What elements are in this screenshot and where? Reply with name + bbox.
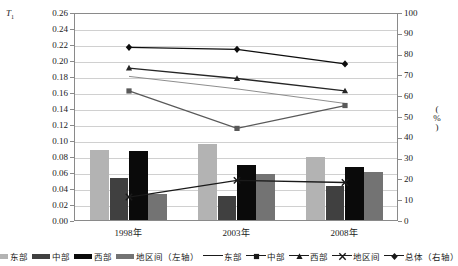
line-marker (342, 103, 347, 108)
chart-legend: 东部中部西部地区间（左轴）东部中部西部地区间总体（右轴） (0, 248, 452, 264)
y-tick-label: 0.08 (52, 153, 68, 162)
legend-item[interactable]: 总体（右轴） (384, 250, 458, 262)
x-axis-label: 2003年 (191, 226, 281, 239)
legend-label: 地区间 (353, 250, 380, 262)
y-tick-label: 0.14 (52, 105, 68, 114)
y-tick-label: 0.10 (52, 137, 68, 146)
legend-marker-diamond (390, 252, 399, 261)
legend-line-sample (203, 252, 223, 260)
legend-swatch (74, 254, 92, 259)
legend-marker-triangle (295, 252, 304, 261)
secondary-y-tick-label: 50 (404, 113, 413, 122)
line-marker (342, 60, 348, 67)
legend-marker-x (338, 252, 347, 261)
legend-marker-square (252, 252, 261, 261)
secondary-y-tick-label: 80 (404, 50, 413, 59)
y-tick-label: 0.06 (52, 169, 68, 178)
legend-label: 总体（右轴） (405, 250, 458, 262)
legend-item[interactable]: 中部 (246, 250, 285, 262)
line-marker (296, 253, 302, 259)
y-tick-label: 0.24 (52, 25, 68, 34)
secondary-y-tick-label: 40 (404, 133, 413, 142)
line-marker (126, 88, 131, 93)
secondary-y-tick-label: 100 (404, 9, 418, 18)
legend-item[interactable]: 西部 (74, 250, 112, 262)
secondary-y-tick-label: 90 (404, 29, 413, 38)
line-marker (339, 253, 345, 259)
legend-line-sample (384, 252, 404, 260)
legend-line-sample (246, 252, 266, 260)
secondary-y-tick-label: 60 (404, 92, 413, 101)
line-series-group (75, 14, 399, 222)
y-tick-mark (70, 221, 74, 222)
x-axis-label: 1998年 (83, 226, 173, 239)
secondary-y-tick-label: 0 (404, 217, 409, 226)
y-axis-tick-labels: 0.000.020.040.060.080.100.120.140.160.18… (0, 0, 68, 266)
legend-label: 东部 (224, 250, 242, 262)
secondary-y-tick-label: 30 (404, 154, 413, 163)
legend-label: 东部 (10, 250, 28, 262)
line-path (129, 180, 345, 197)
legend-label: 中部 (267, 250, 285, 262)
y-tick-label: 0.00 (52, 217, 68, 226)
secondary-y-tick-label: 10 (404, 196, 413, 205)
x-axis-label: 2008年 (299, 226, 389, 239)
y-tick-label: 0.02 (52, 201, 68, 210)
y-tick-label: 0.22 (52, 41, 68, 50)
legend-line-sample (332, 252, 352, 260)
line-marker (391, 252, 397, 259)
y-tick-label: 0.18 (52, 73, 68, 82)
legend-label: 地区间（左轴） (136, 250, 199, 262)
legend-item[interactable]: 东部 (0, 250, 28, 262)
legend-line-sample (289, 252, 309, 260)
y-tick-label: 0.16 (52, 89, 68, 98)
legend-item[interactable]: 中部 (32, 250, 70, 262)
legend-label: 中部 (52, 250, 70, 262)
legend-item[interactable]: 西部 (289, 250, 328, 262)
y-tick-label: 0.26 (52, 9, 68, 18)
plot-area (74, 13, 398, 221)
line-marker (126, 44, 132, 51)
secondary-y-axis-tick-labels: 0102030405060708090100 (404, 0, 434, 266)
y-tick-label: 0.20 (52, 57, 68, 66)
secondary-y-tick-label: 20 (404, 175, 413, 184)
legend-swatch (0, 254, 8, 259)
legend-swatch (116, 254, 134, 259)
legend-label: 西部 (94, 250, 112, 262)
line-marker (126, 65, 132, 71)
y-tick-label: 0.12 (52, 121, 68, 130)
legend-item[interactable]: 东部 (203, 250, 242, 262)
legend-item[interactable]: 地区间 (332, 250, 380, 262)
legend-line-segment (203, 255, 223, 256)
y-tick-label: 0.04 (52, 185, 68, 194)
line-marker (234, 126, 239, 131)
line-marker (253, 253, 258, 258)
legend-item[interactable]: 地区间（左轴） (116, 250, 199, 262)
legend-label: 西部 (310, 250, 328, 262)
line-marker (234, 46, 240, 53)
secondary-y-tick-label: 70 (404, 71, 413, 80)
legend-swatch (32, 254, 50, 259)
line-path (129, 91, 345, 128)
